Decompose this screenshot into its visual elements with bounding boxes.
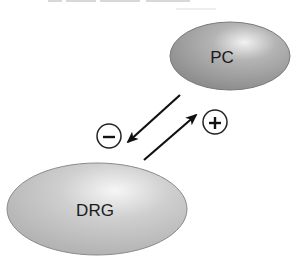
cropped-title-remnant <box>48 0 216 10</box>
feedback-diagram: PC DRG <box>0 0 303 268</box>
pc-label: PC <box>210 48 234 67</box>
plus-sign-icon <box>203 110 227 134</box>
drg-label: DRG <box>76 201 114 220</box>
node-pc: PC <box>170 22 290 90</box>
node-drg: DRG <box>7 163 187 255</box>
minus-sign-icon <box>97 124 121 148</box>
